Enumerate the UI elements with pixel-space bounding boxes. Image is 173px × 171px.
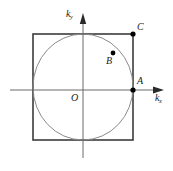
point-B-label: B [106,56,112,66]
figure-container: ky kx O A B C [0,0,173,171]
ky-axis-label: ky [66,9,73,19]
point-A-label: A [137,76,143,86]
origin-label: O [71,93,78,103]
figure-drawing [0,0,173,171]
ky-axis-arrowhead [80,13,86,24]
point-A-marker [130,87,135,92]
kx-axis-label: kx [155,93,162,103]
point-C-label: C [137,22,144,32]
point-C-marker [130,31,135,36]
